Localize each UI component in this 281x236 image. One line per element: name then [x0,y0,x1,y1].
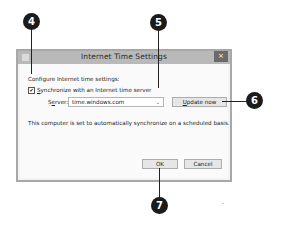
server-label: Server: [48,99,68,105]
status-text: This computer is set to automatically sy… [28,120,230,126]
internet-time-settings-dialog: Internet Time Settings × Configure Inter… [16,49,232,182]
scan-artifact [222,203,224,204]
title-bar[interactable]: Internet Time Settings × [18,51,230,64]
dialog-title: Internet Time Settings [18,52,230,61]
callout-7-badge: 7 [151,197,168,214]
cancel-button[interactable]: Cancel [184,159,222,169]
sync-label-text: ynchronize with an Internet time server [41,87,152,93]
callout-5-badge: 5 [150,14,167,31]
sync-checkbox-label[interactable]: Synchronize with an Internet time server [37,87,151,93]
server-label-rest: rver: [55,99,68,105]
close-button[interactable]: × [214,51,228,62]
server-combobox[interactable]: time.windows.com ⌄ [68,97,164,107]
callout-4-badge: 4 [23,13,40,30]
update-label-text: pdate now [187,99,217,105]
ok-button[interactable]: OK [142,159,178,169]
callout-6-badge: 6 [246,92,263,109]
sync-checkbox[interactable]: ✔ [28,87,35,94]
callout-5-leader [158,22,159,88]
chevron-down-icon[interactable]: ⌄ [156,99,160,105]
dialog-body: Configure Internet time settings: ✔ Sync… [20,64,228,178]
update-now-button[interactable]: Update now [172,97,227,107]
intro-text: Configure Internet time settings: [28,76,120,82]
callout-7-leader [159,168,160,198]
server-value: time.windows.com [72,99,124,105]
